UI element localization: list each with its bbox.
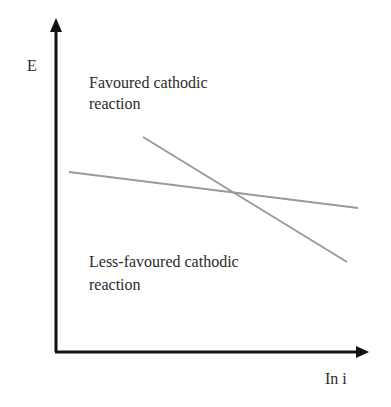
x-axis-label: In i: [325, 368, 347, 389]
shallow-line: [69, 172, 358, 208]
diagram-canvas: [0, 0, 391, 407]
less-favoured-label-line1: Less-favoured cathodic: [89, 251, 239, 272]
y-axis-arrow-icon: [50, 18, 62, 32]
steep-line: [143, 137, 347, 262]
favoured-label-line1: Favoured cathodic: [89, 72, 208, 93]
favoured-label-line2: reaction: [89, 93, 141, 114]
y-axis-label: E: [27, 55, 37, 76]
x-axis-arrow-icon: [356, 346, 369, 358]
less-favoured-label-line2: reaction: [89, 274, 141, 295]
